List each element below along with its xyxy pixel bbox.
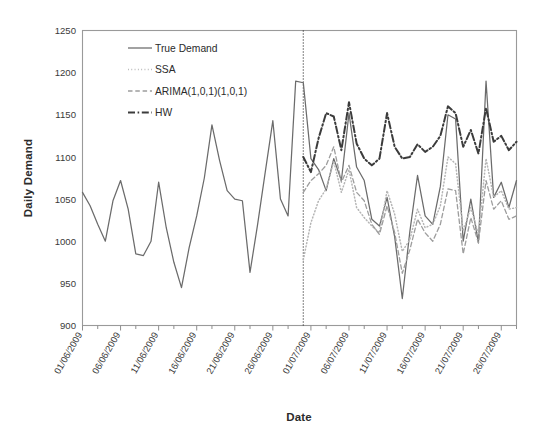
y-tick-label: 1250 xyxy=(55,25,76,36)
y-axis-tick-labels: 900950100010501100115012001250 xyxy=(55,25,76,331)
line-chart: 900950100010501100115012001250 01/06/200… xyxy=(0,0,546,437)
x-tick-label: 21/07/2009 xyxy=(433,331,465,376)
x-axis-tick-marks xyxy=(83,326,517,331)
x-tick-label: 01/06/2009 xyxy=(52,331,84,376)
y-tick-label: 1150 xyxy=(55,109,76,120)
y-tick-label: 950 xyxy=(60,278,76,289)
y-tick-label: 1200 xyxy=(55,67,76,78)
x-tick-label: 26/07/2009 xyxy=(471,331,503,376)
plot-frame xyxy=(83,31,517,326)
x-tick-label: 26/06/2009 xyxy=(243,331,275,376)
legend-label: True Demand xyxy=(155,43,218,54)
series-line-ssa xyxy=(303,157,516,260)
x-tick-label: 16/06/2009 xyxy=(167,331,199,376)
x-tick-label: 11/07/2009 xyxy=(357,331,389,376)
x-tick-label: 01/07/2009 xyxy=(281,331,313,376)
chart-legend: True DemandSSAARIMA(1,0,1)(1,0,1)HW xyxy=(128,43,247,119)
x-tick-label: 11/06/2009 xyxy=(129,331,161,376)
legend-label: SSA xyxy=(155,64,176,75)
legend-label: HW xyxy=(155,107,172,118)
x-tick-label: 16/07/2009 xyxy=(395,331,427,376)
y-tick-label: 1000 xyxy=(55,236,76,247)
x-tick-label: 21/06/2009 xyxy=(205,331,237,376)
data-series-group xyxy=(83,81,517,298)
x-axis-tick-labels: 01/06/200906/06/200911/06/200916/06/2009… xyxy=(52,331,503,376)
y-tick-label: 1100 xyxy=(55,152,76,163)
x-axis-title: Date xyxy=(286,411,312,423)
legend-label: ARIMA(1,0,1)(1,0,1) xyxy=(155,86,247,97)
chart-figure: 900950100010501100115012001250 01/06/200… xyxy=(0,0,546,437)
y-tick-label: 1050 xyxy=(55,194,76,205)
x-tick-label: 06/07/2009 xyxy=(319,331,351,376)
x-tick-label: 06/06/2009 xyxy=(90,331,122,376)
y-axis-title: Daily Demand xyxy=(22,139,34,217)
y-tick-label: 900 xyxy=(60,320,76,331)
